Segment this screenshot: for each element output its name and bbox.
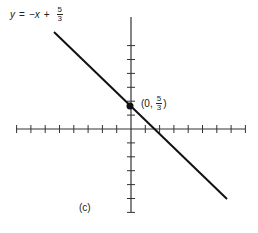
eq-lhs: y	[10, 9, 15, 20]
eq-term: −x	[29, 9, 40, 20]
coordinate-plane	[0, 0, 258, 233]
graph-line	[54, 32, 227, 199]
point-close: )	[163, 98, 166, 109]
eq-equals: =	[19, 9, 25, 20]
point-fraction: 5 3	[156, 95, 162, 112]
eq-plus: +	[44, 9, 50, 20]
eq-fraction: 5 3	[57, 6, 63, 23]
eq-frac-den: 3	[58, 15, 62, 23]
point-open: (0,	[141, 98, 153, 109]
y-intercept-point	[127, 103, 134, 110]
point-label: (0, 5 3 )	[141, 95, 166, 112]
equation-label: y = −x + 5 3	[10, 6, 63, 23]
point-frac-den: 3	[157, 104, 161, 112]
figure-caption: (c)	[79, 202, 91, 213]
